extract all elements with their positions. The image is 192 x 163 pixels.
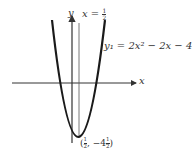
symmetry-lhs: x =: [82, 8, 99, 19]
x-axis-label: x: [139, 76, 145, 86]
y-axis-label: y: [68, 8, 74, 18]
vertex-close: ): [110, 138, 114, 148]
parabola-curve: [52, 20, 105, 137]
symmetry-label: x = 1 2: [82, 8, 106, 21]
symmetry-fraction: 1 2: [102, 8, 106, 21]
symmetry-denominator: 2: [102, 15, 106, 21]
vertex-label: ( 1 2 , −4 1 2 ): [80, 137, 113, 149]
equation-label: y₁ = 2x² − 2x − 4: [104, 41, 192, 51]
vertex-mid: , −4: [87, 138, 106, 148]
